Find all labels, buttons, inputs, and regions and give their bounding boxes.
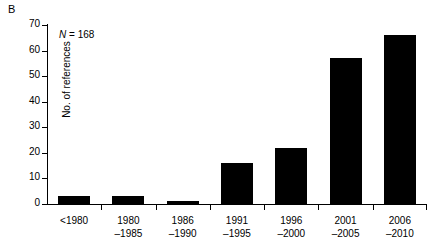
y-tick-mark [42,204,47,205]
y-tick-label: 70 [29,18,40,30]
bar [384,35,416,204]
bar [167,201,199,204]
x-tick-label-line1: 1980 [117,215,139,226]
x-tick-label-line1: 2001 [334,215,356,226]
x-tick-label: 1980–1985 [101,214,155,240]
y-axis-line [47,24,48,205]
bar [112,196,144,204]
y-tick-mark [42,153,47,154]
x-tick-mark [101,205,102,210]
figure-panel-b: B No. of references N = 168 010203040506… [0,0,435,250]
y-tick-mark [42,76,47,77]
panel-label: B [8,3,16,15]
y-tick-mark [42,25,47,26]
bar [221,163,253,204]
x-tick-mark [264,205,265,210]
x-tick-label: <1980 [47,214,101,227]
x-tick-label-line2: –2005 [318,227,372,240]
sample-size-value: 168 [78,29,95,40]
x-tick-label-line2: –1985 [101,227,155,240]
x-tick-label: 1996–2000 [264,214,318,240]
x-tick-label: 1991–1995 [210,214,264,240]
x-tick-mark [318,205,319,210]
bar [330,58,362,204]
y-tick-mark [42,102,47,103]
x-tick-label-line1: 1996 [280,215,302,226]
x-tick-mark [373,205,374,210]
x-tick-label-line1: 2006 [389,215,411,226]
y-tick-label: 30 [29,120,40,132]
y-tick-label: 20 [29,146,40,158]
y-tick-mark [42,127,47,128]
bar [58,196,90,204]
bar [275,148,307,204]
y-tick-mark [42,178,47,179]
y-tick-label: 60 [29,44,40,56]
plot-area: No. of references N = 168 01020304050607… [47,24,427,205]
x-tick-mark [210,205,211,210]
x-tick-label: 1986–1990 [156,214,210,240]
y-tick-label: 40 [29,95,40,107]
x-tick-mark [156,205,157,210]
x-tick-label-line2: –1990 [156,227,210,240]
x-tick-label: 2001–2005 [318,214,372,240]
x-tick-label: 2006–2010 [373,214,427,240]
x-tick-label-line2: –2010 [373,227,427,240]
x-axis-line [47,204,427,205]
sample-size-annotation: N = 168 [59,29,94,41]
y-tick-label: 0 [34,197,40,209]
x-tick-label-line2: –2000 [264,227,318,240]
y-tick-label: 50 [29,69,40,81]
y-tick-label: 10 [29,171,40,183]
y-tick-mark [42,51,47,52]
sample-size-separator: = [66,29,77,40]
x-tick-label-line1: 1986 [172,215,194,226]
x-tick-label-line2: –1995 [210,227,264,240]
x-tick-label-line1: 1991 [226,215,248,226]
x-tick-mark [426,205,427,210]
x-tick-label-line1: <1980 [60,215,88,226]
